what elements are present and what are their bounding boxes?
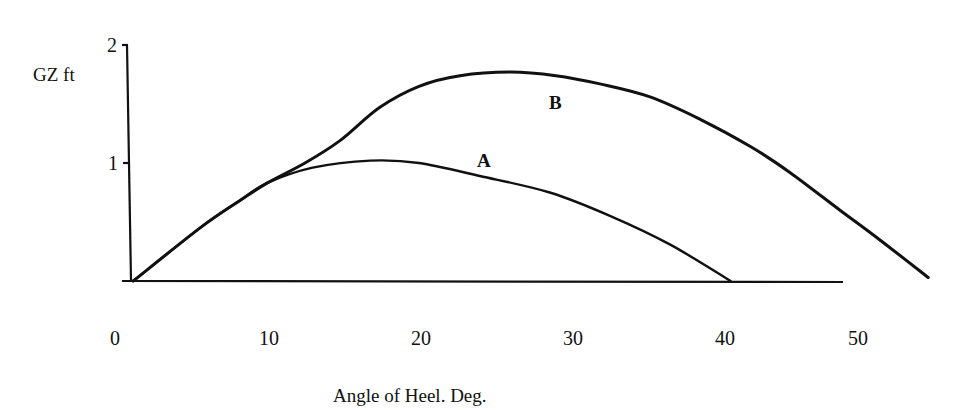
x-tick-label: 30 [563,327,583,349]
x-tick-label: 40 [715,327,735,349]
y-tick-label-1: 1 [108,152,118,174]
y-axis-title: GZ ft [33,64,75,85]
curve-b [133,72,928,281]
curve-a [133,160,730,281]
x-tick-label: 10 [259,327,279,349]
x-axis-title: Angle of Heel. Deg. [333,385,487,406]
x-axis-line [122,281,843,282]
series-label-b: B [549,92,562,113]
x-tick-labels: 0 10 20 30 40 50 [110,327,868,349]
gz-stability-chart: GZ ft 2 1 0 10 20 30 40 50 Angle of Heel… [0,0,969,410]
x-tick-label: 20 [411,327,431,349]
series-label-a: A [477,150,491,171]
x-tick-label: 50 [848,327,868,349]
x-tick-label: 0 [110,327,120,349]
y-tick-label-2: 2 [107,34,117,56]
